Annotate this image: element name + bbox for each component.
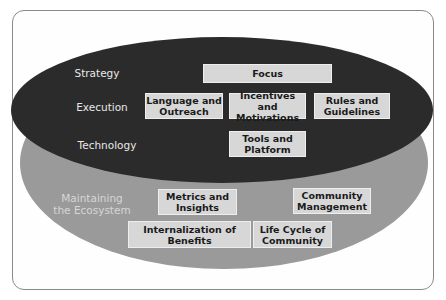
strategy-label: Strategy [62,67,132,79]
technology-label: Technology [62,139,152,151]
language-outreach-box: Language and Outreach [145,93,223,119]
execution-label: Execution [62,101,142,113]
tools-platform-box: Tools and Platform [229,131,306,157]
life-cycle-community-box: Life Cycle of Community [253,221,332,248]
community-management-box: Community Management [293,188,371,214]
internalization-benefits-box: Internalization of Benefits [128,221,251,248]
metrics-insights-box: Metrics and Insights [158,189,237,215]
maintaining-ecosystem-label: Maintaining the Ecosystem [52,192,132,216]
focus-box: Focus [203,64,332,83]
incentives-motivations-box: Incentives and Motivations [229,93,306,119]
rules-guidelines-box: Rules and Guidelines [314,93,390,119]
